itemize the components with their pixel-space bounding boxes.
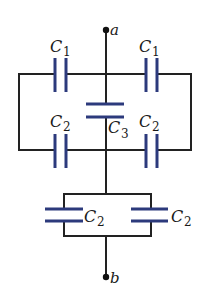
c2-lower-right-subscript: 2 — [184, 215, 192, 229]
capacitor-c2-lower-right: C 2 — [131, 207, 192, 229]
lower-parallel-box — [64, 194, 151, 236]
c1-right-symbol: C — [139, 37, 151, 56]
c2-middle-right-subscript: 2 — [152, 120, 160, 134]
c2-middle-left-subscript: 2 — [63, 120, 71, 134]
terminal-b-label: b — [110, 269, 120, 287]
c2-middle-left-symbol: C — [50, 112, 62, 131]
capacitor-c2-middle-left: C 2 — [50, 112, 71, 168]
capacitor-c3: C 3 — [86, 104, 129, 141]
c1-right-subscript: 1 — [152, 45, 160, 59]
c1-left-subscript: 1 — [63, 45, 71, 59]
terminal-b: b — [103, 236, 120, 287]
circuit-diagram: a C 1 C 1 — [0, 0, 205, 299]
c1-left-symbol: C — [50, 37, 62, 56]
c2-lower-left-subscript: 2 — [97, 215, 105, 229]
c2-lower-right-symbol: C — [171, 207, 183, 226]
c3-symbol: C — [108, 118, 120, 137]
capacitor-c2-lower-left: C 2 — [45, 207, 105, 229]
c2-middle-right-symbol: C — [139, 112, 151, 131]
capacitor-c2-middle-right: C 2 — [139, 112, 160, 168]
c2-lower-left-symbol: C — [84, 207, 96, 226]
c3-subscript: 3 — [121, 127, 129, 141]
capacitor-c1-right: C 1 — [139, 37, 160, 92]
capacitor-c1-left: C 1 — [50, 37, 71, 92]
terminal-a-label: a — [110, 21, 119, 39]
terminal-a: a — [103, 21, 119, 74]
